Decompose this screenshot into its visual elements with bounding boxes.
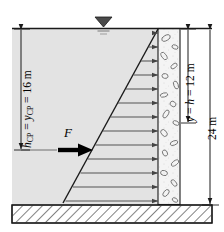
- hydrostatic-pressure-diagram: hCP = yCP = 16 m y = h = 12 m 24 m F: [0, 0, 224, 232]
- label-y-symbol: y: [21, 115, 33, 120]
- label-h-symbol-2: h: [184, 99, 196, 105]
- label-y-h: y = h = 12 m: [185, 63, 197, 122]
- label-h-subscript: CP: [26, 133, 35, 143]
- label-y-h-value: = 12 m: [184, 63, 196, 99]
- label-equals-2: =: [184, 105, 196, 117]
- label-hcp-value: = 16 m: [21, 70, 33, 106]
- concrete-wall: [158, 29, 180, 205]
- foundation-slab: [12, 205, 212, 223]
- label-y-symbol-2: y: [184, 117, 196, 122]
- label-hcp-ycp: hCP = yCP = 16 m: [22, 70, 35, 148]
- label-total-depth: 24 m: [207, 117, 219, 140]
- label-equals-1: =: [21, 120, 33, 132]
- water-surface-triangle-icon: [95, 17, 112, 34]
- label-force-F: F: [64, 126, 72, 139]
- label-y-subscript: CP: [26, 106, 35, 116]
- label-h-symbol: h: [21, 142, 33, 148]
